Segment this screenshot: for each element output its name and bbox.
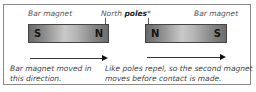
right-caption-line1: Like poles repel, so the second magnet — [105, 64, 253, 74]
left-caption: Bar magnet moved in this direction. — [10, 64, 92, 83]
right-magnet-north-pole: N — [151, 28, 159, 39]
right-direction-arrow — [147, 57, 221, 58]
right-magnet-south-pole: S — [214, 28, 221, 39]
right-caption: Like poles repel, so the second magnet m… — [105, 64, 253, 83]
left-caption-line2: this direction. — [10, 74, 92, 84]
north-prefix: North — [101, 9, 124, 18]
right-magnet-label: Bar magnet — [194, 9, 238, 18]
left-caption-line1: Bar magnet moved in — [10, 64, 92, 74]
north-suffix: * — [147, 9, 151, 18]
north-poles-label: North poles* — [101, 9, 151, 18]
left-bar-magnet: S N — [28, 24, 109, 43]
left-magnet-south-pole: S — [34, 28, 41, 39]
left-magnet-label: Bar magnet — [28, 9, 72, 18]
right-caption-line2: moves before contact is made. — [105, 74, 253, 84]
north-bold: poles — [124, 9, 147, 18]
left-direction-arrow — [30, 58, 103, 59]
left-magnet-north-pole: N — [95, 28, 103, 39]
right-bar-magnet: N S — [145, 24, 227, 43]
